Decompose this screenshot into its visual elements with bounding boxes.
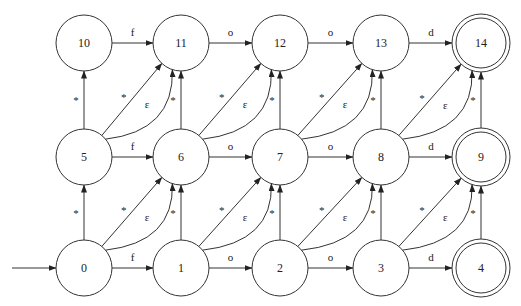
edge-label: *: [219, 91, 225, 103]
edge-6-12-epsilon: [203, 70, 272, 140]
edge-label: ε: [443, 99, 448, 111]
edge-label: *: [470, 94, 476, 106]
edge-label: *: [170, 207, 176, 219]
state-node-3: 3: [353, 240, 409, 296]
edge-label: *: [419, 204, 425, 216]
edge-0-6-epsilon: [106, 184, 173, 251]
edge-label: ε: [145, 98, 150, 110]
state-node-12: 12: [252, 15, 308, 71]
edge-5-11-epsilon: [106, 70, 173, 140]
edge-8-14-star: [399, 64, 461, 135]
edge-label: *: [269, 94, 275, 106]
edge-label: o: [328, 140, 334, 152]
state-node-0: 0: [56, 240, 112, 296]
edge-label: o: [228, 251, 234, 263]
state-label: 1: [178, 261, 184, 275]
edge-label: ε: [243, 98, 248, 110]
state-label: 2: [277, 261, 283, 275]
state-label: 10: [78, 36, 90, 50]
edge-label: ε: [343, 211, 348, 223]
automaton-diagram: foodfoodfood***********ε*ε*ε*ε*ε*ε*ε*ε 0…: [0, 0, 521, 306]
edge-label: d: [428, 251, 434, 263]
edge-label: ε: [343, 98, 348, 110]
state-node-2: 2: [252, 240, 308, 296]
edge-2-8-epsilon: [302, 184, 373, 251]
edge-7-13-epsilon: [302, 70, 373, 140]
edge-label: *: [370, 94, 376, 106]
state-label: 14: [475, 36, 487, 50]
edge-1-7-epsilon: [203, 184, 272, 251]
state-label: 9: [478, 150, 484, 164]
edge-label: f: [131, 26, 135, 38]
edge-label: *: [319, 91, 325, 103]
edge-label: d: [428, 140, 434, 152]
edge-label: *: [319, 204, 325, 216]
edge-5-11-star: [102, 63, 162, 135]
state-node-8: 8: [353, 129, 409, 185]
state-label: 0: [81, 261, 87, 275]
edge-2-8-star: [298, 177, 362, 246]
edge-label: o: [328, 26, 334, 38]
state-label: 3: [378, 261, 384, 275]
state-label: 4: [478, 261, 484, 275]
edge-label: o: [328, 251, 334, 263]
state-label: 5: [81, 150, 87, 164]
state-node-5: 5: [56, 129, 112, 185]
edge-label: *: [219, 204, 225, 216]
edge-label: *: [73, 94, 79, 106]
edge-label: f: [131, 251, 135, 263]
nodes-layer: 01234567891011121314: [56, 14, 510, 297]
edge-label: ε: [443, 211, 448, 223]
state-label: 11: [175, 36, 187, 50]
state-node-1: 1: [153, 240, 209, 296]
edge-1-7-star: [199, 177, 261, 246]
state-node-4: 4: [452, 239, 510, 297]
state-node-14: 14: [452, 14, 510, 72]
state-label: 7: [277, 150, 283, 164]
edge-label: *: [170, 94, 176, 106]
edge-label: d: [428, 26, 434, 38]
edge-label: *: [73, 207, 79, 219]
edge-label: *: [121, 204, 127, 216]
state-label: 8: [378, 150, 384, 164]
edge-0-6-star: [102, 177, 162, 246]
state-label: 13: [375, 36, 387, 50]
edge-8-14-epsilon: [403, 71, 473, 140]
edge-label: f: [131, 140, 135, 152]
edge-7-13-star: [298, 63, 362, 135]
state-node-7: 7: [252, 129, 308, 185]
edge-label: *: [470, 207, 476, 219]
state-node-6: 6: [153, 129, 209, 185]
state-node-13: 13: [353, 15, 409, 71]
edge-6-12-star: [199, 63, 261, 135]
state-label: 12: [274, 36, 286, 50]
edge-label: *: [269, 207, 275, 219]
edge-label: o: [228, 26, 234, 38]
edge-label: *: [370, 207, 376, 219]
state-node-9: 9: [452, 128, 510, 186]
edge-label: ε: [243, 211, 248, 223]
edge-3-9-star: [399, 178, 461, 246]
edge-label: o: [228, 140, 234, 152]
state-node-10: 10: [56, 15, 112, 71]
edge-label: *: [419, 92, 425, 104]
state-label: 6: [178, 150, 184, 164]
edge-label: ε: [145, 211, 150, 223]
edge-label: *: [121, 91, 127, 103]
state-node-11: 11: [153, 15, 209, 71]
edge-3-9-epsilon: [403, 185, 473, 251]
